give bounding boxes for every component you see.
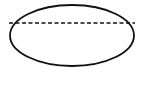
- diagram-canvas: [0, 0, 147, 86]
- ellipse-shape: [10, 5, 134, 66]
